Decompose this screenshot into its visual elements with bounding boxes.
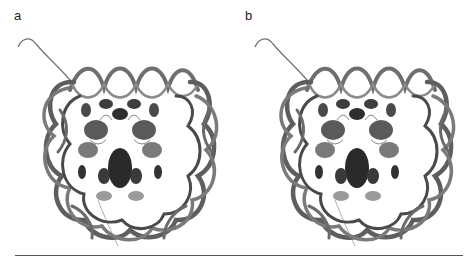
histone-octamer bbox=[78, 99, 162, 201]
figure-bottom-rule bbox=[15, 255, 463, 256]
figure-panel-a: a bbox=[0, 0, 237, 250]
nucleosome-structure-b bbox=[229, 0, 466, 250]
dna-superhelix bbox=[281, 69, 454, 240]
histone-octamer bbox=[315, 99, 399, 201]
nucleosome-structure-a bbox=[0, 0, 237, 250]
figure-panel-b: b bbox=[229, 0, 466, 250]
dna-superhelix bbox=[44, 69, 217, 240]
